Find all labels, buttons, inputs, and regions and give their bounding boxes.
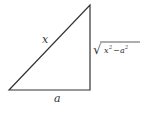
vertical-side-label: √ x 2 − a 2: [93, 42, 140, 57]
exponent-2: 2: [124, 44, 128, 50]
triangle-diagram: x a √ x 2 − a 2: [0, 0, 142, 115]
radical-sign: √: [93, 42, 102, 57]
right-triangle: [9, 5, 90, 90]
minus-operator: −: [113, 46, 120, 55]
exponent-1: 2: [108, 44, 112, 50]
base-label: a: [54, 92, 61, 105]
hypotenuse-label: x: [42, 33, 49, 46]
